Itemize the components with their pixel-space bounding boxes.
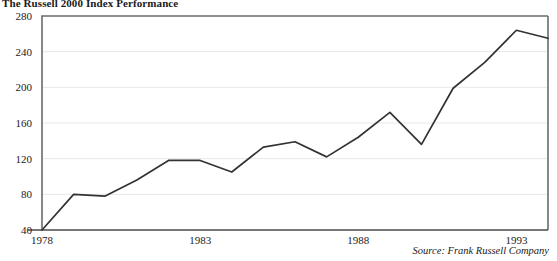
y-axis-tick-label: 80 <box>2 188 32 200</box>
y-axis-tick-label: 120 <box>2 153 32 165</box>
y-axis-tick-label: 240 <box>2 46 32 58</box>
chart-page: The Russell 2000 Index Performance 40801… <box>0 0 557 261</box>
y-axis-tick-label: 160 <box>2 117 32 129</box>
plot-area: 40801201602002402801978198319881993 <box>0 0 557 261</box>
source-note: Source: Frank Russell Company <box>413 245 549 256</box>
x-axis-tick-label: 1978 <box>12 234 72 246</box>
y-axis-tick-label: 280 <box>2 10 32 22</box>
chart-svg <box>0 0 557 261</box>
x-axis-tick-label: 1988 <box>328 234 388 246</box>
y-axis-tick-label: 200 <box>2 81 32 93</box>
x-axis-tick-label: 1983 <box>170 234 230 246</box>
data-series-line <box>42 30 548 230</box>
